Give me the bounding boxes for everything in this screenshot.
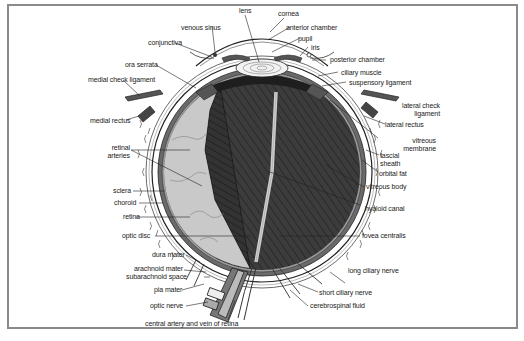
label-lateral-rectus: lateral rectus (385, 121, 424, 129)
label-retina: retina (123, 213, 140, 221)
label-short-ciliary-nerve: short ciliary nerve (319, 289, 372, 297)
label-ora-serrata: ora serrata (125, 61, 158, 69)
label-anterior-chamber: anterior chamber (286, 24, 337, 32)
label-lateral-check-ligament: lateral checkligament (400, 102, 440, 118)
label-vitreous-membrane-line1: vitreous (412, 137, 436, 144)
label-fascial-sheath-line1: fascial (380, 152, 399, 159)
label-cerebrospinal-fluid: cerebrospinal fluid (310, 302, 365, 310)
label-lateral-check-ligament-line1: lateral check (402, 102, 440, 109)
label-optic-disc: optic disc (122, 232, 150, 240)
label-choroid: choroid (114, 199, 136, 207)
label-central-artery-and-vein: central artery and vein of retina (145, 320, 238, 328)
label-posterior-chamber: posterior chamber (330, 56, 385, 64)
label-iris: iris (311, 44, 320, 52)
lateral-rectus-muscle (361, 90, 399, 118)
label-fovea-centralis: fovea centralis (362, 232, 406, 240)
label-ciliary-muscle: ciliary muscle (341, 69, 382, 77)
label-vitreous-membrane-line2: membrane (403, 145, 436, 152)
label-fascial-sheath: fascialsheath (380, 152, 400, 168)
label-retinal-arteries-line1: retinal (112, 144, 130, 151)
label-venous-sinus: venous sinus (181, 24, 221, 32)
label-medial-check-ligament: medial check ligament (88, 76, 155, 84)
label-subarachnoid-space: subarachnoid space (126, 273, 187, 281)
label-optic-nerve: optic nerve (150, 302, 183, 310)
label-lens: lens (239, 7, 251, 15)
medial-rectus-muscle (125, 90, 163, 122)
label-conjunctiva: conjunctiva (148, 39, 182, 47)
label-hyaloid-canal: hyaloid canal (365, 205, 405, 213)
label-retinal-arteries-line2: arteries (107, 152, 130, 159)
label-lateral-check-ligament-line2: ligament (414, 110, 440, 117)
label-pia-mater: pia mater (154, 286, 182, 294)
label-dura-mater: dura mater (152, 251, 185, 259)
eye-cross-section-diagram (0, 0, 524, 341)
label-suspensory-ligament: suspensory ligament (349, 79, 411, 87)
lens (236, 59, 288, 77)
label-vitreous-body: vitreous body (366, 183, 406, 191)
label-arachnoid-mater: arachnoid mater (134, 265, 183, 273)
label-fascial-sheath-line2: sheath (380, 160, 400, 167)
label-orbital-fat: orbital fat (379, 170, 407, 178)
label-cornea: cornea (278, 10, 299, 18)
label-pupil: pupil (298, 35, 312, 43)
label-medial-rectus: medial rectus (90, 117, 130, 125)
label-long-ciliary-nerve: long ciliary nerve (348, 267, 399, 275)
venous-sinus (213, 53, 217, 57)
label-vitreous-membrane: vitreousmembrane (396, 137, 436, 153)
label-sclera: sclera (113, 187, 131, 195)
label-retinal-arteries: retinalarteries (104, 144, 130, 160)
